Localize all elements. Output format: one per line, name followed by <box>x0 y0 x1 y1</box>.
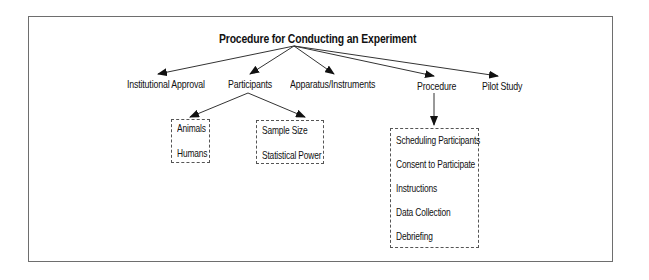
node-apparatus: Apparatus/Instruments <box>290 78 375 90</box>
step-data-collection: Data Collection <box>396 206 451 218</box>
sampling-sample-size: Sample Size <box>262 124 307 136</box>
sampling-statistical-power: Statistical Power <box>262 149 321 161</box>
arrow-to-institutional <box>158 46 294 74</box>
arrow-to-subjects <box>190 93 248 117</box>
step-instructions: Instructions <box>396 182 437 194</box>
subject-animals: Animals <box>177 122 206 134</box>
node-pilot-study: Pilot Study <box>482 80 522 92</box>
subject-humans: Humans <box>177 147 207 159</box>
arrow-to-sampling <box>248 93 305 117</box>
step-debriefing: Debriefing <box>396 230 433 242</box>
step-consent: Consent to Participate <box>396 158 475 170</box>
node-institutional-approval: Institutional Approval <box>127 78 205 90</box>
node-participants: Participants <box>228 78 272 90</box>
arrow-to-pilot <box>294 46 498 76</box>
diagram-title: Procedure for Conducting an Experiment <box>219 31 416 46</box>
node-procedure: Procedure <box>417 80 456 92</box>
step-scheduling: Scheduling Participants <box>396 134 480 146</box>
